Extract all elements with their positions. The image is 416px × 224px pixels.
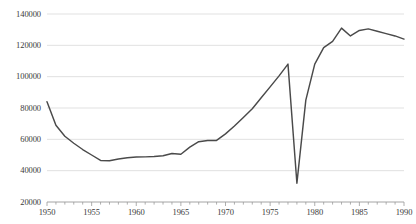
data-series xyxy=(47,28,404,183)
gridlines xyxy=(47,14,404,202)
series-line xyxy=(47,28,404,183)
chart-container: 20000400006000080000100000120000140000 1… xyxy=(0,0,416,224)
x-axis xyxy=(47,202,404,206)
chart-plot-area xyxy=(0,0,416,224)
